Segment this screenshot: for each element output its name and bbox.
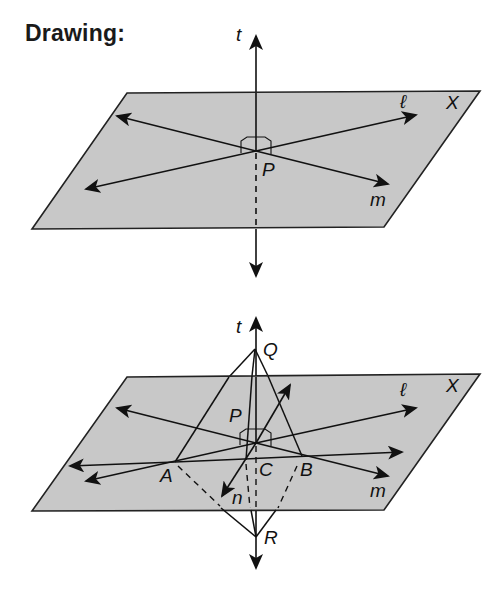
label-a: A	[159, 465, 173, 486]
label-b: B	[300, 459, 313, 480]
label-m: m	[370, 189, 386, 210]
label-t: t	[236, 24, 242, 45]
label-l: ℓ	[399, 379, 407, 400]
label-q: Q	[263, 339, 278, 360]
figure-top: t ℓ X P m	[32, 24, 480, 276]
label-p: P	[262, 159, 275, 180]
label-p: P	[229, 405, 242, 426]
figure-bottom: t Q P ℓ X A C B n m R	[32, 316, 480, 568]
label-r: R	[264, 527, 278, 548]
label-t: t	[236, 316, 242, 337]
label-plane-x: X	[445, 375, 460, 396]
label-m: m	[370, 480, 386, 501]
label-l: ℓ	[399, 91, 407, 112]
label-c: C	[259, 459, 273, 480]
segment-qc-above	[252, 349, 255, 376]
label-n: n	[232, 487, 243, 508]
geometry-diagram: t ℓ X P m	[0, 0, 498, 612]
segment-qa-above	[229, 349, 255, 377]
label-plane-x: X	[445, 92, 460, 113]
